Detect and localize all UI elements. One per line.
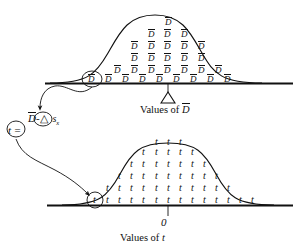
t-glyph: t [155, 183, 158, 193]
t-glyph: t [179, 137, 182, 147]
diagram-canvas: D D D D D D D D D D D D D D D D D D D D … [0, 0, 294, 248]
bottom-curve-group [47, 143, 293, 216]
t-glyph: t [215, 195, 218, 205]
dbar-glyph: D [181, 66, 188, 75]
t-glyph: t [106, 195, 109, 205]
t-glyph: t [155, 159, 158, 169]
dbar-glyph: D [215, 66, 222, 75]
t-glyph: t [118, 195, 121, 205]
t-glyph: t [167, 171, 170, 181]
top-axis-label: Values of D [140, 104, 190, 115]
t-glyph: t [227, 195, 230, 205]
t-glyph: t [155, 195, 158, 205]
formula-denominator: sx [52, 113, 59, 124]
dbar-glyph: D [165, 18, 172, 27]
dbar-glyph: D [148, 66, 155, 75]
dbar-glyph: D [131, 66, 138, 75]
formula-lhs: t = [8, 124, 21, 136]
formula-fraction: D-△ sx [26, 112, 59, 126]
t-glyph: t [142, 183, 145, 193]
t-glyph: t [130, 159, 133, 169]
dbar-glyph: D [164, 54, 171, 63]
formula-delta: △ [40, 112, 48, 125]
bottom-center-label: 0 [161, 216, 167, 228]
t-statistic-formula: D-△ sx [26, 112, 59, 126]
dbar-glyph: D [207, 75, 214, 84]
dbar-glyph: D [114, 66, 121, 75]
dbar-glyph: D [164, 66, 171, 75]
t-glyph: t [191, 147, 194, 157]
dbar-glyph: D [122, 75, 129, 84]
t-glyph: t [167, 195, 170, 205]
dbar-glyph: D [198, 42, 205, 51]
t-glyph: t [179, 171, 182, 181]
t-glyph: t [251, 195, 254, 205]
t-glyph: t [155, 137, 158, 147]
t-glyph: t [106, 183, 109, 193]
dbar-glyph: D [198, 54, 205, 63]
denominator-subscript: x [56, 119, 59, 126]
dbar-glyph: D [131, 54, 138, 63]
t-glyph: t [203, 183, 206, 193]
t-glyph: t [167, 147, 170, 157]
arrow-dbar-to-formula [40, 86, 92, 108]
t-glyph: t [215, 183, 218, 193]
dbar-glyph: D [181, 30, 188, 39]
delta-marker [161, 92, 175, 103]
dbar-glyph: D [164, 42, 171, 51]
t-glyph: t [118, 183, 121, 193]
dbar-glyph: D [181, 42, 188, 51]
t-glyph: t [155, 171, 158, 181]
t-glyph: t [118, 171, 121, 181]
bottom-axis-label: Values of t [120, 232, 165, 243]
t-glyph: t [142, 159, 145, 169]
t-glyph: t [191, 183, 194, 193]
t-glyph: t [142, 147, 145, 157]
dbar-glyph: D [224, 75, 231, 84]
t-glyph: t [155, 147, 158, 157]
formula-dbar: D [28, 112, 36, 124]
t-glyph: t [167, 183, 170, 193]
dbar-glyph-circled: D [88, 75, 95, 84]
dbar-glyph: D [198, 66, 205, 75]
t-glyph: t [179, 147, 182, 157]
t-glyph: t [203, 171, 206, 181]
t-glyph: t [167, 137, 170, 147]
t-glyph: t [191, 171, 194, 181]
t-glyph: t [239, 195, 242, 205]
formula-numerator: D-△ [26, 112, 50, 124]
t-glyph: t [191, 159, 194, 169]
dbar-glyph: D [148, 42, 155, 51]
t-glyph: t [191, 195, 194, 205]
t-glyph: t [142, 195, 145, 205]
t-glyph: t [179, 159, 182, 169]
dbar-glyph: D [156, 75, 163, 84]
dbar-glyph: D [164, 30, 171, 39]
dbar-glyph: D [181, 54, 188, 63]
t-glyph: t [130, 171, 133, 181]
dbar-glyph: D [148, 30, 155, 39]
t-glyph: t [167, 159, 170, 169]
equals-sign: = [14, 124, 21, 136]
t-glyph: t [179, 183, 182, 193]
t-glyph: t [130, 183, 133, 193]
dbar-glyph: D [139, 75, 146, 84]
dbar-glyph: D [173, 75, 180, 84]
t-glyph-circled: t [93, 195, 96, 205]
dbar-glyph: D [148, 54, 155, 63]
t-glyph: t [203, 195, 206, 205]
t-glyph: t [215, 171, 218, 181]
dbar-glyph: D [190, 75, 197, 84]
t-glyph: t [203, 159, 206, 169]
dbar-glyph: D [131, 42, 138, 51]
t-glyph: t [142, 171, 145, 181]
dbar-glyph: D [105, 75, 112, 84]
arrow-formula-to-t [16, 139, 88, 194]
t-glyph: t [179, 195, 182, 205]
t-glyph: t [227, 183, 230, 193]
t-glyph: t [130, 195, 133, 205]
normal-curve-dbar [50, 15, 262, 83]
